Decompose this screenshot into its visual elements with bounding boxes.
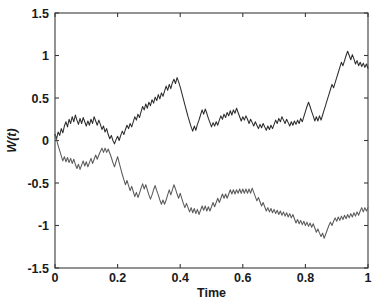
y-tick-label: 0.5 — [32, 92, 49, 106]
x-tick-label: 0.2 — [109, 271, 126, 285]
x-axis-title: Time — [197, 286, 226, 300]
y-tick-label: 1.5 — [32, 7, 49, 21]
y-axis-title: W(t) — [5, 128, 19, 152]
y-tick-label: 0 — [42, 134, 49, 148]
x-tick-label: 0 — [52, 271, 59, 285]
chart-canvas: 00.20.40.60.81 -1.5-1-0.500.511.5 Time W… — [0, 0, 384, 307]
x-tick-labels: 00.20.40.60.81 — [52, 271, 372, 285]
figure-container: 00.20.40.60.81 -1.5-1-0.500.511.5 Time W… — [0, 0, 384, 307]
tick-marks — [55, 13, 368, 268]
x-tick-label: 0.6 — [234, 271, 251, 285]
y-tick-label: 1 — [42, 49, 49, 63]
series-line-1 — [55, 51, 368, 144]
x-tick-label: 0.8 — [297, 271, 314, 285]
y-tick-label: -0.5 — [27, 177, 49, 191]
series-layer — [55, 51, 368, 238]
x-tick-label: 1 — [365, 271, 372, 285]
y-tick-label: -1 — [38, 219, 49, 233]
x-tick-label: 0.4 — [172, 271, 189, 285]
series-line-2 — [55, 135, 368, 239]
y-tick-label: -1.5 — [27, 262, 49, 276]
y-tick-labels: -1.5-1-0.500.511.5 — [27, 7, 49, 276]
axis-frame — [55, 13, 368, 268]
